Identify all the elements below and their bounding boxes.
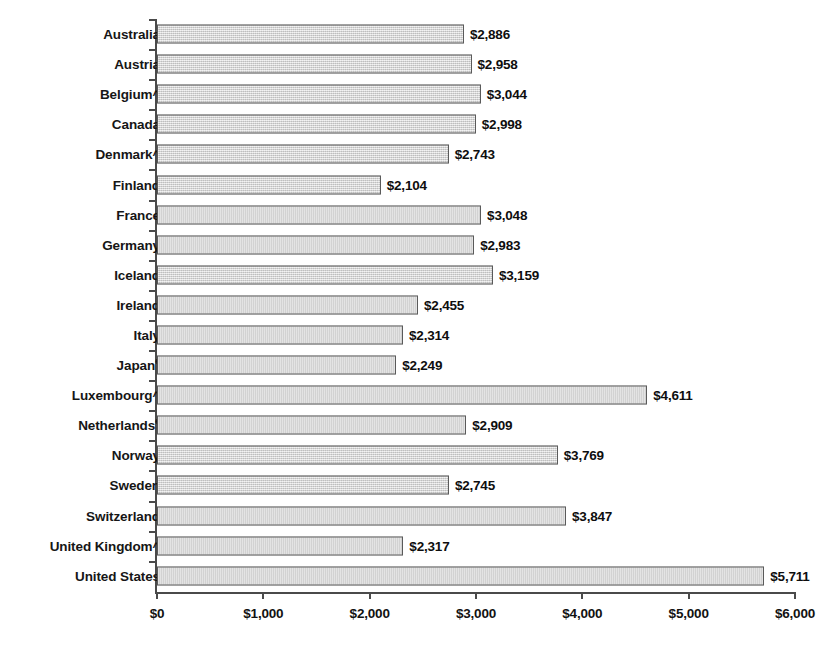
bar [157, 295, 418, 314]
bar-row: United States$5,711 [0, 561, 839, 591]
bar-value-label: $2,745 [455, 478, 495, 493]
bar [157, 205, 481, 224]
bar-row: Luxembourg^$4,611 [0, 380, 839, 410]
bar-row: Sweden$2,745 [0, 470, 839, 500]
x-axis-tick-label: $2,000 [350, 606, 390, 621]
x-axis-tick [156, 592, 158, 599]
bar-rows: Australia$2,886Austria$2,958Belgium^$3,0… [0, 19, 839, 591]
y-axis-tick [149, 290, 155, 292]
bar-row: Australia$2,886 [0, 19, 839, 49]
bar-value-label: $2,314 [409, 327, 449, 342]
category-label: Austria [114, 57, 160, 72]
y-axis-tick [149, 49, 155, 51]
bar-chart: Australia$2,886Austria$2,958Belgium^$3,0… [0, 0, 839, 657]
bar [157, 265, 493, 284]
x-axis-tick [262, 592, 264, 599]
y-axis-tick [149, 380, 155, 382]
bar-value-label: $2,455 [424, 297, 464, 312]
y-axis-tick [149, 501, 155, 503]
x-axis-tick [581, 592, 583, 599]
bar [157, 416, 466, 435]
bar [157, 356, 396, 375]
bar-value-label: $2,998 [482, 117, 522, 132]
bar-row: Austria$2,958 [0, 49, 839, 79]
x-axis-tick [369, 592, 371, 599]
y-axis-tick [149, 320, 155, 322]
bar [157, 325, 403, 344]
bar-row: Italy$2,314 [0, 320, 839, 350]
bar-value-label: $3,769 [564, 448, 604, 463]
bar-row: France$3,048 [0, 200, 839, 230]
bar [157, 115, 476, 134]
y-axis-tick [149, 440, 155, 442]
bar-row: Belgium^$3,044 [0, 79, 839, 109]
category-label: Sweden [110, 478, 160, 493]
bar-row: Canada$2,998 [0, 109, 839, 139]
category-label: Finland [113, 177, 160, 192]
y-axis-tick [149, 561, 155, 563]
bar [157, 386, 647, 405]
x-axis-tick [475, 592, 477, 599]
bar [157, 566, 764, 585]
category-label: Switzerland [86, 508, 160, 523]
category-label: Australia [103, 27, 160, 42]
bar-value-label: $3,159 [499, 267, 539, 282]
bar-value-label: $3,044 [487, 87, 527, 102]
y-axis-tick [149, 230, 155, 232]
x-axis-tick-label: $3,000 [456, 606, 496, 621]
y-axis-tick [149, 200, 155, 202]
bar-value-label: $2,958 [478, 57, 518, 72]
bar [157, 175, 381, 194]
bar-value-label: $3,048 [487, 207, 527, 222]
bar-value-label: $2,317 [409, 538, 449, 553]
bar-row: Netherlandse$2,909 [0, 410, 839, 440]
bar [157, 55, 472, 74]
bar-row: Ireland$2,455 [0, 290, 839, 320]
category-label: Luxembourg^ [72, 388, 160, 403]
bar [157, 25, 464, 44]
y-axis-tick [149, 470, 155, 472]
category-label: Belgium^ [100, 87, 160, 102]
bar [157, 446, 558, 465]
bar-value-label: $2,909 [472, 418, 512, 433]
bar-row: Denmark^$2,743 [0, 139, 839, 169]
y-axis-tick [149, 79, 155, 81]
bar [157, 235, 474, 254]
bar-row: Switzerland$3,847 [0, 501, 839, 531]
y-axis-tick [149, 19, 155, 21]
bar-value-label: $2,743 [455, 147, 495, 162]
y-axis-tick [149, 139, 155, 141]
x-axis-tick-label: $5,000 [669, 606, 709, 621]
x-axis-tick [794, 592, 796, 599]
category-label: France [116, 207, 160, 222]
bar-value-label: $2,983 [480, 237, 520, 252]
category-label: Germany [102, 237, 160, 252]
y-axis-tick [149, 531, 155, 533]
category-label: Iceland [114, 267, 160, 282]
category-label: Denmark^ [95, 147, 160, 162]
bar-row: United Kingdom^$2,317 [0, 531, 839, 561]
bar-row: Iceland$3,159 [0, 260, 839, 290]
y-axis-tick [149, 260, 155, 262]
y-axis-tick [149, 350, 155, 352]
x-axis-tick-label: $0 [150, 606, 165, 621]
bar-row: Japane$2,249 [0, 350, 839, 380]
x-axis-tick-label: $4,000 [562, 606, 602, 621]
category-label: United States [75, 568, 160, 583]
bar-value-label: $2,104 [387, 177, 427, 192]
category-label: Japane [117, 358, 160, 373]
category-label: Ireland [116, 297, 160, 312]
bar-row: Germany$2,983 [0, 230, 839, 260]
x-axis-tick [688, 592, 690, 599]
bar-value-label: $5,711 [770, 568, 809, 583]
bar [157, 85, 481, 104]
category-label: Canada [112, 117, 160, 132]
bar-row: Norway$3,769 [0, 440, 839, 470]
bar [157, 536, 403, 555]
category-label: United Kingdom^ [50, 538, 160, 553]
bar-value-label: $3,847 [572, 508, 612, 523]
y-axis-tick [149, 109, 155, 111]
y-axis-tick [149, 410, 155, 412]
category-label: Netherlandse [78, 418, 160, 433]
bar [157, 506, 566, 525]
